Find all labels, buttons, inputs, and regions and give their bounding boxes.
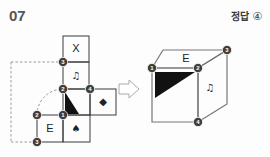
net-vertex-2-left: 2 <box>32 110 41 119</box>
net-vertex-4: 4 <box>85 84 94 93</box>
net-vertex-3-top: 3 <box>58 57 67 66</box>
puzzle-page: 07 정답 ④ <box>0 0 270 157</box>
folded-cube-group: E ♫ 1 2 3 4 <box>147 45 231 126</box>
net-glyph-note: ♫ <box>72 70 81 81</box>
cube-vertex-4: 4 <box>193 117 202 126</box>
net-glyph-x: X <box>72 42 80 54</box>
cube-vertex-2: 2 <box>193 63 202 72</box>
cube-vertex-1: 1 <box>147 63 156 72</box>
net-glyph-diamond: ◆ <box>99 96 107 107</box>
cube-vertex-3: 3 <box>222 45 231 54</box>
cube-net-group: X ♫ ◆ E ♠ 3 2 4 1 2 <box>11 36 116 147</box>
cube-glyph-note: ♫ <box>206 82 215 93</box>
guide-dash-arc <box>37 89 63 115</box>
puzzle-figure: X ♫ ◆ E ♠ 3 2 4 1 2 <box>0 0 270 157</box>
net-vertex-3-bottom: 3 <box>32 137 41 146</box>
cube-black-triangle <box>155 72 195 98</box>
net-vertex-2-upper: 2 <box>58 84 67 93</box>
transform-arrow-group <box>119 80 139 98</box>
transform-arrow-icon <box>119 80 139 98</box>
net-black-triangle <box>65 92 79 114</box>
net-glyph-e: E <box>46 122 53 134</box>
cube-glyph-e: E <box>182 52 189 64</box>
net-vertex-1: 1 <box>58 110 67 119</box>
net-glyph-spade: ♠ <box>72 123 81 134</box>
